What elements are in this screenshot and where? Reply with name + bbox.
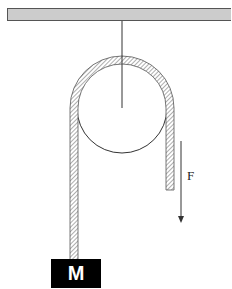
pulley-diagram <box>0 0 231 289</box>
arrow-head-icon <box>178 216 184 223</box>
ceiling <box>8 9 232 21</box>
force-label: F <box>187 168 194 184</box>
mass-block: M <box>51 259 101 288</box>
